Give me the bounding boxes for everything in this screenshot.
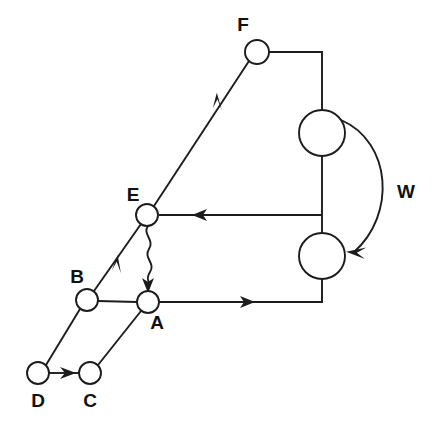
edge-F-to-upper-node (269, 52, 322, 110)
edge-E-to-B (94, 224, 141, 291)
node-A-label: A (150, 312, 164, 333)
edge-W-feedback-arc-path (341, 120, 383, 252)
node-A-circle[interactable] (137, 291, 159, 313)
diagram-canvas: F E B A C (0, 0, 436, 426)
node-E-circle[interactable] (136, 204, 158, 226)
node-B[interactable]: B (70, 266, 98, 311)
graph-svg: F E B A C (0, 0, 436, 426)
node-F-label: F (237, 14, 249, 35)
node-B-circle[interactable] (76, 289, 98, 311)
edge-label-W: W (397, 181, 415, 202)
edge-A-to-lower-node-path (159, 279, 322, 302)
edge-C-to-A-line (98, 311, 141, 365)
node-F[interactable]: F (237, 14, 269, 64)
edge-W-feedback-arc-arrowhead (346, 240, 370, 261)
edge-W-feedback-arc (341, 120, 383, 261)
node-B-label: B (70, 266, 84, 287)
edge-F-to-upper-node-path (269, 52, 322, 110)
edge-B-to-A (98, 301, 137, 302)
node-C-label: C (83, 390, 97, 411)
node-upper-large[interactable] (299, 110, 345, 156)
node-C-circle[interactable] (79, 362, 101, 384)
node-D-label: D (31, 390, 45, 411)
node-C[interactable]: C (79, 362, 101, 411)
edge-E-to-A-wavy (142, 226, 154, 293)
edge-D-to-B-line (46, 309, 80, 365)
edge-C-to-A (98, 311, 141, 365)
edge-spine-to-E (159, 209, 322, 221)
edge-E-to-F (154, 61, 249, 206)
edge-E-to-A-wavy-path (146, 226, 151, 288)
node-upper-large-circle[interactable] (299, 110, 345, 156)
edge-A-to-lower-node (159, 279, 322, 308)
edge-B-to-A-line (98, 301, 137, 302)
node-F-circle[interactable] (245, 40, 269, 64)
node-E-label: E (127, 184, 140, 205)
node-D[interactable]: D (27, 362, 49, 411)
node-D-circle[interactable] (27, 362, 49, 384)
edge-D-to-B (46, 309, 80, 365)
node-lower-large[interactable] (299, 233, 345, 279)
edge-E-to-F-line (154, 61, 249, 206)
edge-D-to-C (49, 367, 79, 379)
node-lower-large-circle[interactable] (299, 233, 345, 279)
node-E[interactable]: E (127, 184, 158, 226)
